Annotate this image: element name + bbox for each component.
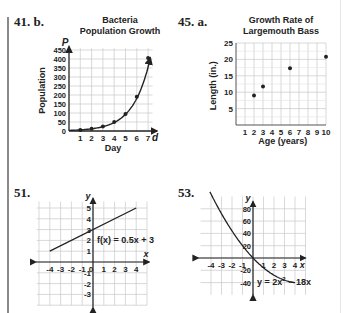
y-tick-label: 80 (243, 205, 251, 214)
y-tick-label: 25 (224, 39, 233, 48)
data-point (90, 127, 94, 131)
y-tick-label: 2 (87, 236, 92, 245)
x-tick-label: 5 (123, 134, 128, 143)
y-tick-label: 200 (53, 91, 66, 100)
x-tick-label: 4 (112, 134, 117, 143)
data-point (124, 112, 128, 116)
y-tick-label: 40 (243, 229, 251, 238)
y-tick-label: 1 (87, 247, 92, 256)
x-tick-label: 1 (102, 265, 107, 274)
chart-title: Bacteria (102, 15, 139, 25)
x-tick-label: 2 (112, 265, 117, 274)
x-axis-variable: x (142, 249, 149, 259)
chart-title: Growth Rate of (249, 15, 315, 25)
x-axis-title: Day (105, 143, 122, 153)
y-tick-label: 0 (62, 127, 66, 136)
x-tick-label: 9 (315, 128, 320, 137)
y-tick-label: 5 (87, 204, 92, 213)
y-tick-label: -20 (240, 266, 251, 275)
chart-bacteria-population: BacteriaPopulation GrowthPd0501001502002… (37, 15, 160, 153)
y-axis-variable: y (84, 191, 91, 201)
x-tick-label: 2 (252, 128, 257, 137)
y-tick-label: 4 (87, 215, 92, 224)
x-tick-label: -4 (207, 261, 215, 270)
charts-canvas: BacteriaPopulation GrowthPd0501001502002… (0, 0, 345, 313)
x-tick-label: -2 (228, 261, 236, 270)
y-tick-label: 20 (224, 55, 233, 64)
x-axis-title: Age (years) (258, 136, 307, 146)
y-axis-title: Length (in.) (208, 61, 218, 110)
chart-title: Population Growth (80, 26, 161, 36)
y-tick-label: 10 (224, 88, 233, 97)
y-tick-label: 5 (229, 105, 234, 114)
x-tick-label: 4 (293, 261, 298, 270)
data-point (78, 128, 82, 132)
x-tick-label: 3 (123, 265, 128, 274)
x-tick-label: 1 (78, 134, 83, 143)
data-point (135, 95, 139, 99)
x-tick-label: 7 (146, 134, 151, 143)
y-tick-label: 100 (53, 109, 66, 118)
x-tick-label: 2 (272, 261, 277, 270)
x-tick-label: 1 (243, 128, 248, 137)
chart-title: Largemouth Bass (243, 26, 319, 36)
data-point (261, 85, 265, 89)
y-tick-label: -2 (84, 280, 92, 289)
data-point (324, 55, 328, 59)
y-axis-variable: y (244, 193, 251, 203)
equation-label: y = 2x2 − 18x (257, 276, 311, 287)
data-point (101, 125, 105, 129)
data-point (146, 56, 150, 60)
data-point (112, 120, 116, 124)
chart-quadratic-function: xy-4-3-2-11234-40-2020406080y = 2x2 − 18… (198, 192, 311, 295)
equation-label: f(x) = 0.5x + 3 (97, 235, 154, 245)
y-tick-label: 50 (58, 118, 66, 127)
x-tick-label: 3 (101, 134, 106, 143)
x-tick-label: 10 (322, 128, 331, 137)
y-tick-label: 15 (224, 72, 233, 81)
x-tick-label: 2 (89, 134, 94, 143)
y-tick-label: -40 (240, 279, 251, 288)
chart-linear-function: xy-4-3-2-101234-3-2-112345f(x) = 0.5x + … (36, 191, 154, 307)
y-tick-label: 150 (53, 100, 66, 109)
y-tick-label: 20 (243, 242, 251, 251)
y-tick-label: -3 (84, 290, 92, 299)
y-tick-label: 300 (53, 73, 66, 82)
y-tick-label: 450 (53, 46, 66, 55)
x-tick-label: -2 (68, 265, 76, 274)
chart-largemouth-bass: Growth Rate ofLargemouth Bass51015202512… (208, 15, 331, 146)
y-tick-label: -1 (84, 269, 92, 278)
data-point (252, 93, 256, 97)
x-tick-label: -3 (218, 261, 226, 270)
x-tick-label: 6 (135, 134, 140, 143)
growth-curve (69, 58, 150, 131)
y-tick-label: 60 (243, 217, 251, 226)
x-axis-variable: d (152, 132, 159, 143)
x-tick-label: -4 (46, 265, 54, 274)
x-tick-label: 4 (134, 265, 139, 274)
x-tick-label: -3 (57, 265, 65, 274)
y-tick-label: 250 (53, 82, 66, 91)
y-axis-title: Population (37, 67, 47, 114)
y-tick-label: 350 (53, 64, 66, 73)
x-axis-variable: x (299, 260, 306, 270)
y-tick-label: 400 (53, 55, 66, 64)
data-point (288, 66, 292, 70)
x-tick-label: 3 (282, 261, 287, 270)
